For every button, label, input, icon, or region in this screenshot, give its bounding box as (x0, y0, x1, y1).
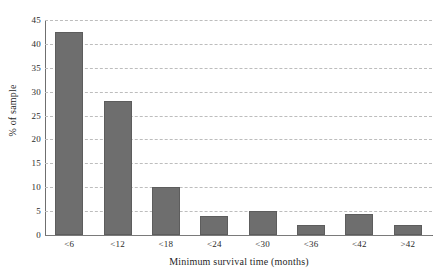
y-axis-tick-label: 5 (3, 206, 41, 216)
bar (249, 211, 277, 235)
x-axis-tick-label: <24 (207, 239, 222, 249)
x-axis-tick-label: >42 (400, 239, 415, 249)
y-axis-title: % of sample (7, 61, 18, 161)
gridline (45, 235, 432, 236)
y-axis-tick-label: 45 (3, 15, 41, 25)
bar (104, 101, 132, 235)
bars-layer (45, 20, 432, 235)
x-axis-tick-label: <36 (304, 239, 319, 249)
bar-chart: 454035302520151050 <6<12<18<24<30<36<42>… (0, 0, 443, 280)
x-axis-tick-label: <6 (64, 239, 74, 249)
bar (394, 225, 422, 235)
x-axis-title: Minimum survival time (months) (45, 256, 433, 267)
y-axis-tick-label: 10 (3, 182, 41, 192)
x-axis-tick-label: <42 (352, 239, 367, 249)
bar (297, 225, 325, 235)
bar (152, 187, 180, 235)
y-axis-tick-label: 0 (3, 230, 41, 240)
plot-area (45, 20, 432, 235)
bar (345, 214, 373, 235)
bar (200, 216, 228, 235)
bar (55, 32, 83, 235)
x-axis-tick-label: <30 (255, 239, 270, 249)
x-axis-tick-label: <18 (159, 239, 174, 249)
y-axis-tick-label: 40 (3, 39, 41, 49)
x-axis-tick-label: <12 (110, 239, 125, 249)
